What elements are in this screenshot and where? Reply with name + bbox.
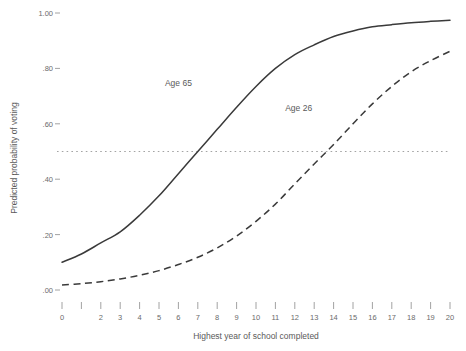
y-tick-label: 1.00	[38, 9, 53, 18]
predicted-probability-of-voting-chart: 1.00.80.60.40.20.00 02345678910111213141…	[0, 0, 466, 351]
chart-container: 1.00.80.60.40.20.00 02345678910111213141…	[0, 0, 466, 351]
x-axis-tick-labels: 0234567891011121314151617181920	[60, 313, 454, 322]
x-tick-label: 9	[235, 313, 239, 322]
x-tick-label: 7	[196, 313, 200, 322]
x-tick-label: 12	[291, 313, 299, 322]
x-tick-label: 18	[407, 313, 415, 322]
y-tick-label: .40	[43, 175, 53, 184]
y-axis-title: Predicted probability of voting	[9, 102, 19, 214]
x-tick-label: 4	[138, 313, 142, 322]
x-tick-label: 17	[388, 313, 396, 322]
annotation-age-65: Age 65	[165, 78, 192, 88]
x-axis-tick-marks	[62, 302, 450, 309]
x-tick-label: 20	[446, 313, 454, 322]
annotation-age-26: Age 26	[285, 103, 312, 113]
x-tick-label: 6	[176, 313, 180, 322]
x-axis-title: Highest year of school completed	[193, 331, 319, 341]
curve-age-65	[62, 20, 450, 262]
y-tick-label: .80	[43, 64, 53, 73]
y-tick-label: .60	[43, 120, 53, 129]
x-tick-label: 11	[272, 313, 280, 322]
x-tick-label: 10	[252, 313, 260, 322]
x-tick-label: 2	[99, 313, 103, 322]
x-tick-label: 3	[118, 313, 122, 322]
x-tick-label: 19	[426, 313, 434, 322]
x-tick-label: 13	[310, 313, 318, 322]
x-tick-label: 16	[368, 313, 376, 322]
y-tick-label: .20	[43, 231, 53, 240]
y-axis-tick-labels: 1.00.80.60.40.20.00	[38, 9, 53, 295]
y-tick-label: .00	[43, 286, 53, 295]
x-tick-label: 8	[215, 313, 219, 322]
x-tick-label: 15	[349, 313, 357, 322]
x-tick-label: 5	[157, 313, 161, 322]
x-tick-label: 14	[329, 313, 337, 322]
x-tick-label: 0	[60, 313, 64, 322]
